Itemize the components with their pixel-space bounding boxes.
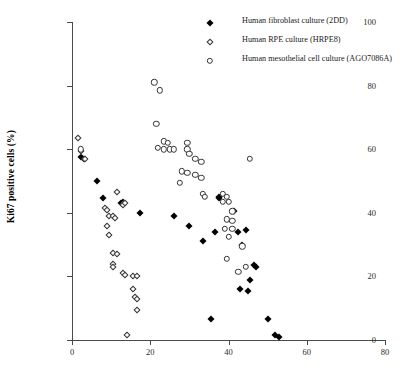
data-point [237,286,244,293]
x-axis-tick [150,340,151,345]
data-point [264,316,271,323]
data-point [113,251,120,258]
open-circle-icon [207,58,213,64]
data-point [121,271,128,278]
data-point [243,227,250,234]
data-point [186,222,193,229]
data-point [170,212,177,219]
data-point [184,170,190,176]
y-axis-tick [67,149,72,150]
chart-legend: Human fibroblast culture (2DD)Human RPE … [196,14,401,71]
x-axis-tick-label: 0 [70,348,74,357]
data-point [252,263,259,270]
y-axis-tick-label: 80 [368,82,377,91]
data-point [235,228,242,235]
y-axis-tick [67,276,72,277]
y-axis-tick-label: 40 [368,209,377,218]
y-axis-tick-label: 20 [368,272,377,281]
data-point [276,333,283,340]
data-point [137,209,144,216]
data-point [245,287,252,294]
data-point [239,243,245,249]
filled-diamond-icon [206,19,213,26]
data-point [153,121,159,127]
x-axis-tick-label: 60 [303,348,312,357]
data-point [225,198,231,204]
y-axis-tick-label: 60 [368,145,377,154]
data-point [133,306,140,313]
data-point [200,238,207,245]
data-point [221,225,227,231]
y-axis-title: Ki67 positive cells (%) [6,130,16,223]
data-point [94,177,101,184]
data-point [133,273,140,280]
x-axis-tick-label: 40 [224,348,233,357]
y-axis-tick [67,86,72,87]
legend-item-label: Human mesothelial cell culture (AGO7086A… [242,54,392,63]
x-axis-tick [307,340,308,345]
data-point [225,233,231,239]
data-point [151,79,157,85]
legend-item-label: Human RPE culture (HRPE8) [242,35,340,44]
legend-item: Human mesothelial cell culture (AGO7086A… [196,52,401,71]
data-point [243,264,249,270]
x-axis-tick [385,340,386,345]
data-point [198,159,204,165]
legend-item: Human RPE culture (HRPE8) [196,33,401,52]
x-axis-tick-label: 20 [146,348,155,357]
data-point [202,194,208,200]
data-point [104,206,111,213]
data-point [123,332,130,339]
data-point [106,232,113,239]
data-point [229,218,235,224]
data-point [223,256,229,262]
y-axis-tick-label: 0 [372,336,376,345]
legend-item-label: Human fibroblast culture (2DD) [242,16,348,25]
data-point [100,195,107,202]
open-diamond-icon [206,38,213,45]
data-point [235,268,241,274]
data-point [211,228,218,235]
y-axis-tick [67,22,72,23]
data-point [104,222,111,229]
data-point [74,135,81,142]
data-point [246,276,253,283]
x-axis-tick-label: 80 [381,348,390,357]
data-point [113,189,120,196]
data-point [111,214,118,221]
data-point [171,146,177,152]
scatter-chart-figure: Ki67 positive cells (%) 0204060801000204… [0,0,408,374]
data-point [157,87,163,93]
data-point [207,316,214,323]
y-axis-tick [67,213,72,214]
x-axis-tick [72,340,73,345]
data-point [129,286,136,293]
x-axis-tick [229,340,230,345]
data-point [247,156,253,162]
data-point [176,179,182,185]
legend-item: Human fibroblast culture (2DD) [196,14,401,33]
data-point [198,175,204,181]
